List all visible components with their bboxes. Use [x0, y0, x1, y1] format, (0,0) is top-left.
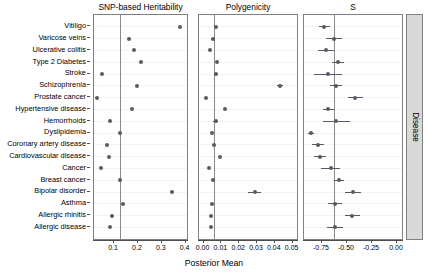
y-axis-tick	[87, 25, 90, 26]
data-row	[199, 151, 297, 162]
forest-plot-figure: VitiligoVaricose veinsUlcerative colitis…	[0, 0, 428, 275]
data-row	[199, 128, 297, 139]
data-point	[209, 214, 213, 218]
data-point	[218, 155, 222, 159]
data-row	[199, 116, 297, 127]
x-axis-tick-label: -0.50	[332, 243, 360, 252]
data-point	[214, 119, 218, 123]
y-axis-tick	[87, 214, 90, 215]
data-point	[107, 155, 111, 159]
data-row	[199, 175, 297, 186]
y-axis-label-bipolar-disorder: Bipolar disorder	[34, 187, 86, 194]
data-point	[322, 25, 326, 29]
y-axis-label-vitiligo: Vitiligo	[64, 22, 86, 29]
y-axis-tick	[87, 108, 90, 109]
y-axis-tick	[87, 143, 90, 144]
data-row	[94, 104, 187, 115]
data-row	[304, 175, 402, 186]
data-point	[100, 72, 104, 76]
data-point	[214, 25, 218, 29]
data-point	[337, 178, 341, 182]
data-row	[94, 33, 187, 44]
panel-snp-based-heritability	[93, 14, 188, 240]
data-point	[209, 225, 213, 229]
data-row	[199, 210, 297, 221]
x-axis-tick-label: 0.00	[382, 243, 410, 252]
data-point	[334, 84, 338, 88]
data-point	[127, 37, 131, 41]
data-row	[199, 163, 297, 174]
data-row	[304, 151, 402, 162]
y-axis-tick	[87, 73, 90, 74]
y-axis-tick	[87, 155, 90, 156]
data-point	[333, 202, 337, 206]
y-axis-category-labels: VitiligoVaricose veinsUlcerative colitis…	[0, 0, 90, 275]
y-axis-tick	[87, 37, 90, 38]
data-point	[132, 48, 136, 52]
data-row	[304, 198, 402, 209]
data-row	[199, 57, 297, 68]
data-row	[304, 222, 402, 233]
data-row	[199, 139, 297, 150]
data-point	[324, 48, 328, 52]
data-row	[199, 222, 297, 233]
data-point	[214, 72, 218, 76]
data-row	[94, 116, 187, 127]
x-axis-tick-label: -0.75	[307, 243, 335, 252]
data-row	[199, 92, 297, 103]
data-point	[350, 214, 354, 218]
y-axis-label-coronary-artery-disease: Coronary artery disease	[7, 140, 86, 147]
data-row	[94, 45, 187, 56]
data-point	[110, 214, 114, 218]
data-row	[94, 175, 187, 186]
data-row	[304, 80, 402, 91]
y-axis-tick	[87, 132, 90, 133]
data-row	[199, 69, 297, 80]
data-row	[94, 128, 187, 139]
data-point	[223, 107, 227, 111]
data-point	[211, 178, 215, 182]
data-point	[210, 131, 214, 135]
data-point	[318, 155, 322, 159]
data-point	[316, 143, 320, 147]
data-row	[94, 210, 187, 221]
data-row	[304, 69, 402, 80]
data-point	[253, 190, 257, 194]
y-axis-tick	[87, 179, 90, 180]
data-point	[329, 166, 333, 170]
data-point	[99, 166, 103, 170]
x-axis-line	[303, 240, 403, 241]
y-axis-tick	[87, 96, 90, 97]
data-point	[108, 119, 112, 123]
data-point	[204, 96, 208, 100]
data-row	[304, 33, 402, 44]
data-row	[304, 163, 402, 174]
y-axis-label-cardiovascular-disease: Cardiovascular disease	[9, 152, 86, 159]
x-axis-tick-label: -0.25	[357, 243, 385, 252]
data-row	[94, 80, 187, 91]
data-point	[333, 225, 337, 229]
data-point	[334, 119, 338, 123]
data-point	[309, 131, 313, 135]
y-axis-tick	[87, 226, 90, 227]
y-axis-tick	[87, 49, 90, 50]
data-row	[199, 21, 297, 32]
y-axis-tick	[87, 191, 90, 192]
data-point	[118, 131, 122, 135]
data-row	[304, 139, 402, 150]
y-axis-label-ulcerative-colitis: Ulcerative colitis	[33, 46, 86, 53]
y-axis-label-varicose-veins: Varicose veins	[38, 34, 86, 41]
data-point	[207, 166, 211, 170]
data-point	[139, 60, 143, 64]
y-axis-tick	[87, 167, 90, 168]
data-row	[304, 104, 402, 115]
y-axis-tick	[87, 61, 90, 62]
data-point	[208, 48, 212, 52]
x-axis-title: Posterior Mean	[0, 258, 428, 268]
data-point	[130, 107, 134, 111]
data-row	[199, 80, 297, 91]
data-point	[95, 96, 99, 100]
data-point	[212, 143, 216, 147]
data-point	[118, 178, 122, 182]
data-point	[278, 84, 282, 88]
